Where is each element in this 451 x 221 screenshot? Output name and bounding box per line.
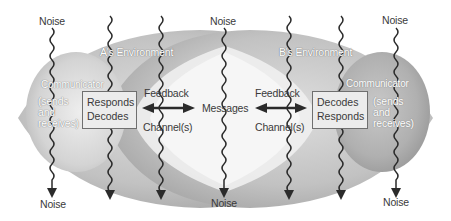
communicator-a-action-1: Responds [87, 95, 132, 109]
noise-label-bottom-left: Noise [40, 199, 66, 210]
messages-label: Messages [202, 103, 248, 114]
communicator-b-box: Decodes Responds [312, 91, 368, 129]
communicator-a-action-2: Decodes [87, 109, 132, 123]
environment-b-label: B's Environment [279, 47, 352, 58]
communicator-b-action-1: Decodes [317, 95, 363, 109]
noise-label-top-left: Noise [39, 16, 65, 27]
communication-model-diagram: Noise Noise Noise Noise Noise Noise A's … [0, 0, 451, 221]
noise-label-top-right: Noise [382, 15, 408, 26]
channels-label-left: Channel(s) [143, 122, 192, 133]
feedback-label-left: Feedback [144, 88, 189, 99]
communicator-b-role: (sends and receives) [373, 96, 414, 129]
feedback-label-right: Feedback [255, 88, 300, 99]
arrowhead-down-icon [336, 190, 346, 200]
noise-label-bottom-center: Noise [211, 198, 237, 209]
arrowhead-down-icon [105, 190, 115, 200]
communicator-a-box: Responds Decodes [82, 91, 137, 129]
environment-a-label: A's Environment [100, 47, 173, 58]
communicator-a-role: (sends and receives) [38, 96, 79, 129]
arrowhead-down-icon [47, 188, 57, 198]
communicator-b-label: Communicator [346, 79, 409, 89]
noise-label-top-center: Noise [210, 16, 236, 27]
channels-label-right: Channel(s) [255, 122, 304, 133]
communicator-b-action-2: Responds [317, 109, 363, 123]
noise-label-bottom-right: Noise [383, 197, 409, 208]
communicator-a-label: Communicator [41, 80, 104, 90]
